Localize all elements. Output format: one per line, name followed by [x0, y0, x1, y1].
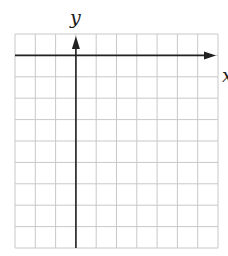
- x-axis-label: x: [222, 66, 228, 85]
- y-axis-arrow-icon: [72, 36, 80, 49]
- grid-lines: [15, 34, 218, 248]
- coordinate-grid: [0, 0, 228, 256]
- x-axis-arrow-icon: [204, 51, 216, 59]
- axes: [15, 36, 216, 248]
- y-axis-label: y: [70, 8, 81, 27]
